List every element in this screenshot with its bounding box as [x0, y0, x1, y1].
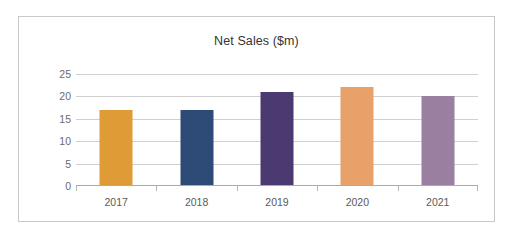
- bar-2017[interactable]: [100, 110, 133, 186]
- x-axis-tick-mark: [237, 186, 238, 191]
- x-axis-tick-mark: [317, 186, 318, 191]
- x-axis-tick-label: 2019: [265, 196, 288, 208]
- bar-group: 2018: [156, 74, 236, 186]
- y-axis-tick-label: 15: [37, 113, 71, 125]
- bar-2019[interactable]: [260, 92, 293, 186]
- x-axis-tick-mark: [398, 186, 399, 191]
- x-axis-tick-label: 2017: [105, 196, 128, 208]
- x-axis-tick-label: 2020: [346, 196, 369, 208]
- x-axis-tick-label: 2021: [426, 196, 449, 208]
- y-axis-tick-label: 20: [37, 90, 71, 102]
- plot-area: 20172018201920202021: [76, 74, 478, 186]
- bar-group: 2019: [237, 74, 317, 186]
- y-axis-tick-labels: 0510152025: [31, 74, 71, 186]
- y-axis-tick-label: 0: [37, 180, 71, 192]
- chart-card: Net Sales ($m) 0510152025 20172018201920…: [18, 16, 495, 222]
- bar-group: 2017: [76, 74, 156, 186]
- y-axis-tick-label: 5: [37, 158, 71, 170]
- x-axis-tick-label: 2018: [185, 196, 208, 208]
- x-axis-line: [76, 185, 478, 186]
- bar-group: 2020: [317, 74, 397, 186]
- bar-group: 2021: [398, 74, 478, 186]
- bar-2021[interactable]: [421, 96, 454, 186]
- bar-2020[interactable]: [341, 87, 374, 186]
- x-axis-tick-mark: [156, 186, 157, 191]
- y-axis-tick-label: 10: [37, 135, 71, 147]
- x-axis-tick-mark: [76, 186, 77, 191]
- chart-title: Net Sales ($m): [19, 34, 494, 48]
- bar-2018[interactable]: [180, 110, 213, 186]
- x-axis-tick-mark: [477, 186, 478, 191]
- y-axis-tick-label: 25: [37, 68, 71, 80]
